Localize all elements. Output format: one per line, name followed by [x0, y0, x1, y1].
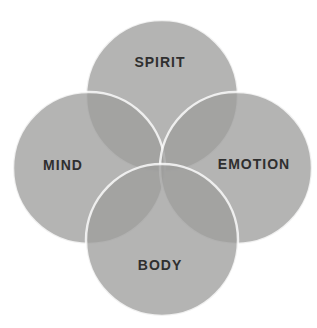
mind-label: MIND	[43, 157, 83, 173]
venn-diagram-canvas: SPIRIT MIND EMOTION BODY	[0, 0, 317, 328]
emotion-label: EMOTION	[218, 156, 290, 172]
venn-diagram: SPIRIT MIND EMOTION BODY	[0, 0, 317, 328]
spirit-label: SPIRIT	[134, 54, 185, 70]
body-circle	[86, 164, 238, 316]
body-label: BODY	[138, 257, 182, 273]
